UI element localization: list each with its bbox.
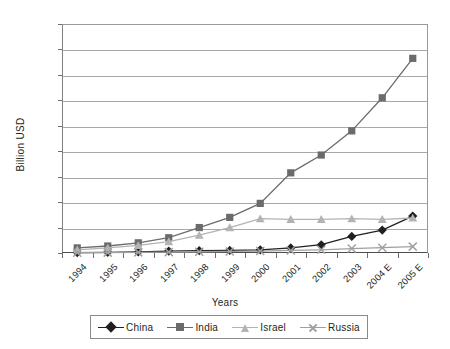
legend-label-russia: Russia (328, 322, 360, 333)
legend-item-russia[interactable]: Russia (300, 322, 360, 333)
data-point-marker (379, 94, 386, 101)
data-point-marker (257, 200, 264, 207)
legend-item-china[interactable]: China (98, 322, 153, 333)
data-point-marker (226, 214, 233, 221)
data-point-marker (378, 226, 387, 235)
chart-legend: China India Israel Russia (90, 315, 368, 339)
legend-item-india[interactable]: India (167, 322, 218, 333)
india-swatch-icon (167, 322, 193, 333)
data-point-marker (348, 127, 355, 134)
data-point-marker (196, 224, 203, 231)
x-axis-title: Years (0, 297, 450, 308)
data-point-marker (409, 55, 416, 62)
russia-swatch-icon (300, 322, 326, 333)
legend-label-israel: Israel (260, 322, 286, 333)
legend-item-israel[interactable]: Israel (232, 322, 286, 333)
data-point-marker (256, 245, 265, 254)
china-swatch-icon (98, 322, 124, 333)
data-point-marker (317, 240, 326, 249)
data-point-marker (318, 151, 325, 158)
chart-container: Billion USD 024681012141618 199419951996… (0, 0, 450, 349)
legend-label-india: India (195, 322, 218, 333)
data-point-marker (287, 169, 294, 176)
series-line (77, 216, 413, 253)
legend-label-china: China (126, 322, 153, 333)
israel-swatch-icon (232, 322, 258, 333)
series-india (74, 55, 417, 252)
data-point-marker (347, 232, 356, 241)
